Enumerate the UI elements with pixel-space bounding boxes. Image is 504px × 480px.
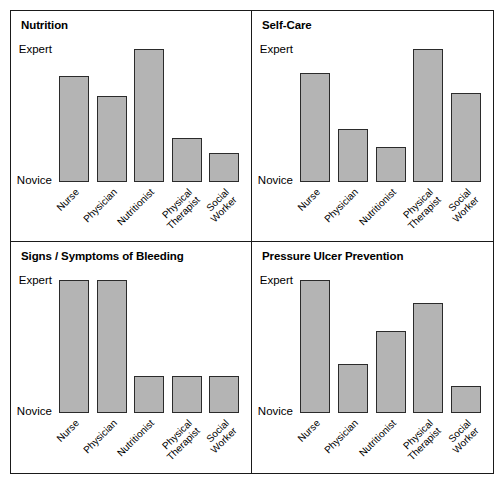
x-axis-tick-label: Physician	[322, 187, 360, 225]
bar-group: NursePhysicianNutritionistPhysicalTherap…	[298, 49, 485, 182]
panel-self-care: Self-Care Expert Novice NursePhysicianNu…	[252, 11, 493, 242]
bar-slot: Nurse	[300, 49, 330, 182]
x-axis-tick-label: PhysicalTherapist	[399, 418, 444, 463]
panel-nutrition: Nutrition Expert Novice NursePhysicianNu…	[11, 11, 252, 242]
y-axis-bottom-label: Novice	[17, 175, 52, 187]
bar-slot: PhysicalTherapist	[172, 49, 202, 182]
bar	[172, 138, 202, 182]
bar	[376, 147, 406, 182]
plot-area: Expert Novice NursePhysicianNutritionist…	[298, 49, 485, 182]
x-axis-tick-label: SocialWorker	[443, 418, 481, 456]
x-axis-tick-label-line: Nutritionist	[116, 418, 157, 459]
bar-slot: Physician	[97, 280, 127, 413]
bar-slot: SocialWorker	[451, 49, 481, 182]
panel-title: Self-Care	[262, 19, 312, 31]
bar-slot: PhysicalTherapist	[413, 49, 443, 182]
bar	[209, 376, 239, 413]
x-axis-tick-label: Nurse	[296, 187, 323, 214]
x-axis-tick-label: Nurse	[296, 418, 323, 445]
x-axis-tick-label: PhysicalTherapist	[399, 187, 444, 232]
plot-area: Expert Novice NursePhysicianNutritionist…	[57, 49, 243, 182]
x-axis-tick-label-line: Physician	[322, 187, 360, 225]
x-axis-tick-label: Nutritionist	[357, 187, 398, 228]
bar	[300, 73, 330, 182]
y-axis-top-label: Expert	[260, 44, 293, 56]
bar-slot: SocialWorker	[451, 280, 481, 413]
bar	[300, 280, 330, 413]
bar-slot: Physician	[97, 49, 127, 182]
bar	[413, 49, 443, 182]
x-axis-tick-label-line: Nutritionist	[116, 187, 157, 228]
plot-area: Expert Novice NursePhysicianNutritionist…	[298, 280, 485, 413]
bar	[172, 376, 202, 413]
bar	[338, 129, 368, 182]
y-axis-top-label: Expert	[19, 44, 52, 56]
bar-slot: Nurse	[59, 49, 89, 182]
bar	[59, 280, 89, 413]
panel-title: Signs / Symptoms of Bleeding	[21, 250, 184, 262]
bar	[59, 76, 89, 182]
x-axis-tick-label: Physician	[322, 418, 360, 456]
panel-title: Nutrition	[21, 19, 68, 31]
bar-slot: Nutritionist	[134, 49, 164, 182]
x-axis-tick-label: Nurse	[55, 187, 82, 214]
x-axis-tick-label: SocialWorker	[201, 418, 239, 456]
x-axis-tick-label-line: Nurse	[55, 418, 82, 445]
bar-slot: Nutritionist	[134, 280, 164, 413]
x-axis-tick-label: SocialWorker	[201, 187, 239, 225]
x-axis-tick-label-line: Nurse	[296, 187, 323, 214]
x-axis-tick-label: PhysicalTherapist	[157, 187, 202, 232]
bar-slot: SocialWorker	[209, 280, 239, 413]
y-axis-bottom-label: Novice	[17, 406, 52, 418]
x-axis-tick-label: Nutritionist	[357, 418, 398, 459]
x-axis-tick-label-line: Nurse	[55, 187, 82, 214]
bar-slot: SocialWorker	[209, 49, 239, 182]
bar	[451, 93, 481, 182]
x-axis-tick-label-line: Nurse	[296, 418, 323, 445]
y-axis-bottom-label: Novice	[258, 406, 293, 418]
bar	[451, 386, 481, 413]
bar-slot: Physician	[338, 280, 368, 413]
bar	[134, 49, 164, 182]
y-axis-bottom-label: Novice	[258, 175, 293, 187]
bar-slot: PhysicalTherapist	[413, 280, 443, 413]
y-axis-top-label: Expert	[19, 275, 52, 287]
bar-slot: Nutritionist	[376, 49, 406, 182]
bar	[134, 376, 164, 413]
plot-area: Expert Novice NursePhysicianNutritionist…	[57, 280, 243, 413]
bar	[376, 331, 406, 413]
bar	[97, 280, 127, 413]
bar-group: NursePhysicianNutritionistPhysicalTherap…	[57, 280, 243, 413]
x-axis-tick-label-line: Physician	[322, 418, 360, 456]
x-axis-tick-label: Nutritionist	[116, 187, 157, 228]
panel-title: Pressure Ulcer Prevention	[262, 250, 403, 262]
x-axis-tick-label: PhysicalTherapist	[157, 418, 202, 463]
x-axis-tick-label-line: Nutritionist	[357, 418, 398, 459]
multi-panel-bar-chart-figure: Nutrition Expert Novice NursePhysicianNu…	[10, 10, 494, 474]
x-axis-tick-label: SocialWorker	[443, 187, 481, 225]
x-axis-tick-label: Nurse	[55, 418, 82, 445]
bar	[97, 96, 127, 182]
panel-signs-symptoms-of-bleeding: Signs / Symptoms of Bleeding Expert Novi…	[11, 242, 252, 473]
x-axis-tick-label: Nutritionist	[116, 418, 157, 459]
bar	[413, 303, 443, 413]
x-axis-tick-label-line: Nutritionist	[357, 187, 398, 228]
bar-group: NursePhysicianNutritionistPhysicalTherap…	[298, 280, 485, 413]
bar	[338, 364, 368, 413]
bar-slot: PhysicalTherapist	[172, 280, 202, 413]
bar	[209, 153, 239, 182]
bar-slot: Nurse	[59, 280, 89, 413]
bar-slot: Nutritionist	[376, 280, 406, 413]
bar-group: NursePhysicianNutritionistPhysicalTherap…	[57, 49, 243, 182]
bar-slot: Physician	[338, 49, 368, 182]
bar-slot: Nurse	[300, 280, 330, 413]
panel-pressure-ulcer-prevention: Pressure Ulcer Prevention Expert Novice …	[252, 242, 493, 473]
y-axis-top-label: Expert	[260, 275, 293, 287]
